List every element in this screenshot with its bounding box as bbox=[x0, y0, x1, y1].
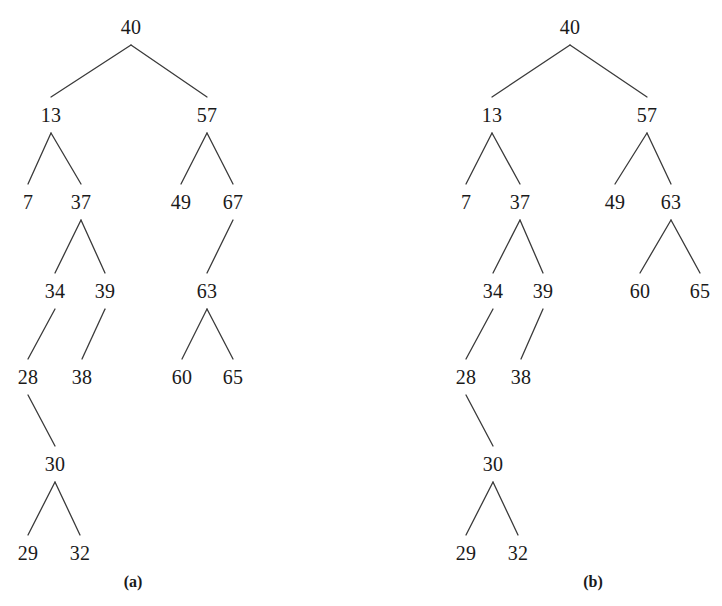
tree-edge bbox=[671, 220, 700, 273]
tree-node-67: 67 bbox=[223, 192, 243, 212]
tree-edge bbox=[55, 220, 81, 273]
tree-node-39: 39 bbox=[533, 281, 553, 301]
tree-node-37: 37 bbox=[510, 192, 530, 212]
tree-node-63: 63 bbox=[197, 281, 217, 301]
tree-edge bbox=[131, 45, 207, 97]
tree-node-37: 37 bbox=[71, 192, 91, 212]
tree-edge bbox=[207, 220, 233, 273]
tree-node-49: 49 bbox=[605, 192, 625, 212]
tree-node-38: 38 bbox=[72, 367, 92, 387]
tree-node-28: 28 bbox=[456, 367, 476, 387]
tree-node-13: 13 bbox=[482, 105, 502, 125]
tree-node-29: 29 bbox=[18, 543, 38, 563]
tree-node-65: 65 bbox=[690, 281, 710, 301]
tree-node-65: 65 bbox=[223, 367, 243, 387]
tree-edges-layer bbox=[0, 0, 722, 606]
tree-edge bbox=[466, 482, 493, 535]
tree-node-34: 34 bbox=[483, 281, 503, 301]
tree-edge bbox=[520, 220, 543, 273]
tree-node-30: 30 bbox=[483, 454, 503, 474]
tree-edge bbox=[182, 309, 207, 359]
figure-canvas: 401357737496734396328386065302932(a)4013… bbox=[0, 0, 722, 606]
tree-node-32: 32 bbox=[508, 543, 528, 563]
tree-edge bbox=[28, 133, 51, 184]
tree-node-34: 34 bbox=[45, 281, 65, 301]
tree-edge bbox=[615, 133, 647, 184]
tree-edge bbox=[207, 133, 233, 184]
tree-edge bbox=[51, 45, 131, 97]
tree-edge bbox=[81, 220, 105, 273]
tree-node-29: 29 bbox=[456, 543, 476, 563]
tree-node-7: 7 bbox=[23, 192, 33, 212]
tree-edge bbox=[207, 309, 233, 359]
tree-node-28: 28 bbox=[18, 367, 38, 387]
tree-edge bbox=[28, 309, 55, 359]
tree-edge bbox=[570, 45, 647, 97]
panel-caption: (b) bbox=[583, 574, 603, 590]
tree-node-13: 13 bbox=[41, 105, 61, 125]
tree-node-60: 60 bbox=[172, 367, 192, 387]
tree-edge bbox=[492, 133, 520, 184]
tree-edge bbox=[181, 133, 207, 184]
tree-edge bbox=[466, 309, 493, 359]
tree-edge bbox=[493, 482, 518, 535]
tree-edge bbox=[51, 133, 81, 184]
tree-node-63: 63 bbox=[661, 192, 681, 212]
tree-edge bbox=[640, 220, 671, 273]
tree-node-7: 7 bbox=[461, 192, 471, 212]
tree-edge bbox=[521, 309, 543, 359]
tree-node-57: 57 bbox=[637, 105, 657, 125]
tree-node-39: 39 bbox=[95, 281, 115, 301]
tree-node-38: 38 bbox=[511, 367, 531, 387]
tree-node-40: 40 bbox=[121, 17, 141, 37]
tree-edge bbox=[466, 395, 493, 446]
tree-node-40: 40 bbox=[560, 17, 580, 37]
tree-node-49: 49 bbox=[171, 192, 191, 212]
tree-edge bbox=[493, 220, 520, 273]
tree-edge bbox=[28, 395, 55, 446]
tree-node-57: 57 bbox=[197, 105, 217, 125]
tree-edge bbox=[647, 133, 671, 184]
tree-edge bbox=[55, 482, 80, 535]
tree-node-32: 32 bbox=[70, 543, 90, 563]
tree-node-60: 60 bbox=[630, 281, 650, 301]
tree-edge bbox=[466, 133, 492, 184]
tree-edge bbox=[492, 45, 570, 97]
tree-node-30: 30 bbox=[45, 454, 65, 474]
tree-edge bbox=[82, 309, 105, 359]
tree-edge bbox=[28, 482, 55, 535]
panel-caption: (a) bbox=[124, 574, 143, 590]
